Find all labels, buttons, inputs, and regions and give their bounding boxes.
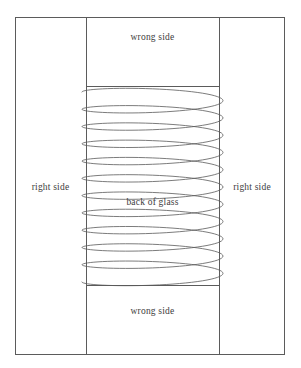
label-top-wrong-side: wrong side xyxy=(86,33,219,43)
label-right-right-side: right side xyxy=(219,183,285,193)
label-bottom-wrong-side: wrong side xyxy=(86,307,219,317)
diagram-canvas: wrong side right side right side back of… xyxy=(0,0,301,368)
label-left-right-side: right side xyxy=(15,183,86,193)
label-back-of-glass: back of glass xyxy=(86,198,219,208)
